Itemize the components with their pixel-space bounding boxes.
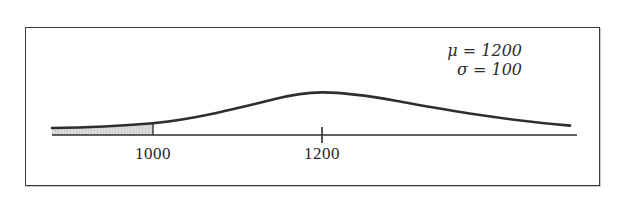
sigma-annotation: σ = 100 — [400, 60, 522, 79]
axis-tick-label-1000: 1000 — [135, 145, 171, 162]
parameter-annotation: μ = 1200 σ = 100 — [400, 41, 522, 79]
normal-density-curve — [52, 92, 570, 128]
mu-annotation: μ = 1200 — [400, 41, 522, 60]
figure-root: 1000 1200 μ = 1200 σ = 100 — [0, 0, 621, 200]
axis-tick-label-1200: 1200 — [304, 145, 340, 162]
